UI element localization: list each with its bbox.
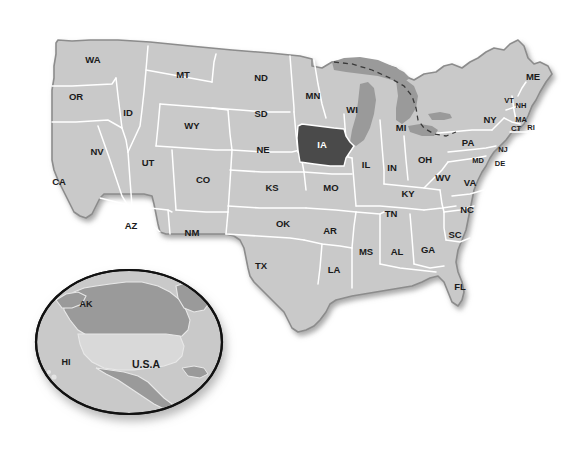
state-label-mn[interactable]: MN	[306, 90, 321, 101]
state-label-ky[interactable]: KY	[401, 188, 415, 199]
state-label-ri[interactable]: RI	[527, 123, 535, 132]
state-label-wi[interactable]: WI	[346, 104, 358, 115]
state-label-al[interactable]: AL	[391, 246, 404, 257]
state-label-ca[interactable]: CA	[52, 176, 66, 187]
hawaii-speck	[51, 374, 56, 379]
state-label-la[interactable]: LA	[328, 264, 341, 275]
state-label-oh[interactable]: OH	[418, 154, 432, 165]
state-label-de[interactable]: DE	[495, 159, 505, 168]
state-label-me[interactable]: ME	[526, 71, 540, 82]
state-label-fl[interactable]: FL	[454, 281, 466, 292]
hawaii-speck	[47, 370, 51, 374]
state-label-il[interactable]: IL	[362, 159, 371, 170]
state-label-tn[interactable]: TN	[385, 208, 398, 219]
state-label-ut[interactable]: UT	[142, 157, 155, 168]
state-label-ks[interactable]: KS	[265, 182, 278, 193]
state-label-mo[interactable]: MO	[323, 182, 338, 193]
state-label-ct[interactable]: CT	[511, 124, 521, 133]
state-label-mt[interactable]: MT	[176, 69, 190, 80]
state-label-pa[interactable]: PA	[462, 137, 475, 148]
state-label-ne[interactable]: NE	[256, 144, 269, 155]
state-label-nm[interactable]: NM	[185, 227, 200, 238]
globe-label-usa: U.S.A	[132, 358, 160, 370]
state-label-ny[interactable]: NY	[483, 114, 497, 125]
state-label-nj[interactable]: NJ	[498, 145, 508, 154]
state-label-wa[interactable]: WA	[85, 54, 100, 65]
state-label-wv[interactable]: WV	[435, 172, 451, 183]
state-label-sd[interactable]: SD	[254, 108, 267, 119]
state-label-mi[interactable]: MI	[396, 122, 407, 133]
state-label-ga[interactable]: GA	[421, 244, 435, 255]
state-label-va[interactable]: VA	[464, 177, 477, 188]
state-label-sc[interactable]: SC	[448, 229, 461, 240]
us-map-figure: WAORIDMTWYNVUTCACOAZNMNDSDNEKSOKTXMNIAMO…	[0, 0, 584, 449]
globe-label-hi: HI	[62, 357, 71, 367]
state-label-co[interactable]: CO	[196, 174, 210, 185]
globe-label-ak: AK	[80, 299, 93, 309]
state-label-tx[interactable]: TX	[255, 260, 268, 271]
state-label-ar[interactable]: AR	[323, 225, 337, 236]
state-label-ia[interactable]: IA	[317, 139, 327, 150]
state-label-ms[interactable]: MS	[359, 246, 373, 257]
state-label-or[interactable]: OR	[69, 91, 83, 102]
south-america-tip	[192, 394, 218, 416]
globe-inset: AKHIU.S.A	[36, 270, 222, 416]
state-label-nc[interactable]: NC	[460, 204, 474, 215]
state-label-vt[interactable]: VT	[504, 96, 514, 105]
state-label-nh[interactable]: NH	[516, 101, 527, 110]
state-label-id[interactable]: ID	[123, 107, 133, 118]
state-label-in[interactable]: IN	[387, 162, 397, 173]
state-label-az[interactable]: AZ	[125, 220, 138, 231]
us-map-svg: WAORIDMTWYNVUTCACOAZNMNDSDNEKSOKTXMNIAMO…	[0, 0, 584, 449]
state-label-md[interactable]: MD	[472, 156, 484, 165]
state-label-wy[interactable]: WY	[184, 120, 200, 131]
state-label-ok[interactable]: OK	[276, 218, 290, 229]
state-label-nv[interactable]: NV	[90, 146, 104, 157]
state-label-ma[interactable]: MA	[515, 115, 527, 124]
state-label-nd[interactable]: ND	[254, 72, 268, 83]
